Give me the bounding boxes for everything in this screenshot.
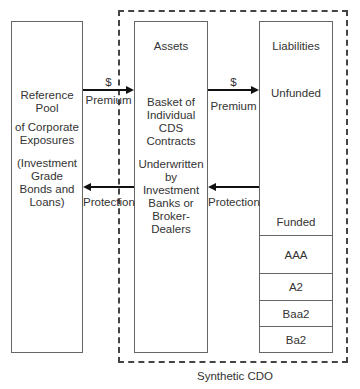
arrow-right-icon xyxy=(251,86,259,94)
reference-pool-label: Reference Pool of Corporate Exposures (I… xyxy=(11,89,83,209)
left-premium-arrow xyxy=(83,89,127,91)
reference-pool-line: Grade xyxy=(11,170,83,183)
assets-description: Basket of Individual CDS Contracts Under… xyxy=(134,96,208,236)
tranche-ba2: Ba2 xyxy=(260,326,332,353)
reference-pool-line: Pool xyxy=(11,102,83,115)
assets-line: by xyxy=(134,171,208,184)
arrow-left-icon xyxy=(83,183,91,191)
liabilities-box: AAA A2 Baa2 Ba2 xyxy=(259,21,333,353)
tranche-a2: A2 xyxy=(260,273,332,300)
arrow-left-icon xyxy=(208,183,216,191)
right-premium-arrow xyxy=(208,89,252,91)
reference-pool-line: Exposures xyxy=(11,134,83,147)
unfunded-label: Unfunded xyxy=(259,87,333,100)
liabilities-title: Liabilities xyxy=(259,40,333,53)
assets-line: CDS xyxy=(134,122,208,135)
tranche-aaa: AAA xyxy=(260,235,332,273)
synthetic-cdo-label: Synthetic CDO xyxy=(185,370,285,383)
reference-pool-line: of Corporate xyxy=(11,121,83,134)
arrow-right-icon xyxy=(126,86,134,94)
right-premium-label: Premium xyxy=(208,100,259,113)
assets-title: Assets xyxy=(134,40,208,53)
assets-line: Broker- xyxy=(134,210,208,223)
right-protection-arrow xyxy=(215,186,259,188)
reference-pool-line: Loans) xyxy=(11,196,83,209)
assets-line: Dealers xyxy=(134,223,208,236)
assets-line: Banks or xyxy=(134,197,208,210)
assets-line: Investment xyxy=(134,184,208,197)
right-protection-label: Protection xyxy=(208,196,259,209)
reference-pool-line: Reference xyxy=(11,89,83,102)
reference-pool-line: (Investment xyxy=(11,157,83,170)
tranche-baa2: Baa2 xyxy=(260,300,332,326)
assets-line: Underwritten xyxy=(134,158,208,171)
assets-line: Contracts xyxy=(134,135,208,148)
assets-line: Individual xyxy=(134,109,208,122)
left-protection-label: Protection xyxy=(83,196,134,209)
left-premium-label: Premium xyxy=(83,94,134,107)
assets-line: Basket of xyxy=(134,96,208,109)
funded-label: Funded xyxy=(259,216,333,229)
left-protection-arrow xyxy=(90,186,134,188)
reference-pool-line: Bonds and xyxy=(11,183,83,196)
